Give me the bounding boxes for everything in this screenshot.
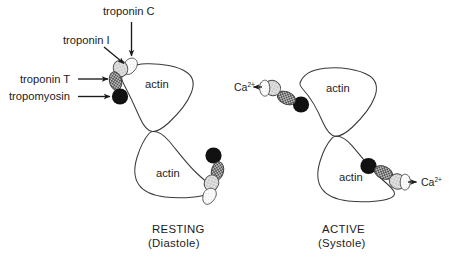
troponin-c-label: troponin C xyxy=(103,5,155,17)
actin-label-top-resting: actin xyxy=(145,78,169,90)
caption-active-main: ACTIVE xyxy=(322,223,365,235)
troponin-t-label: troponin T xyxy=(20,73,70,85)
caption-active-sub: (Systole) xyxy=(318,237,366,249)
calcium-left-text: Ca xyxy=(234,81,248,93)
calcium-right-text: Ca xyxy=(421,176,435,188)
troponin-i-label: troponin I xyxy=(63,34,110,46)
tropomyosin-body-top xyxy=(112,88,128,104)
actin-label-top-active: actin xyxy=(326,82,350,94)
calcium-right-charge: 2+ xyxy=(434,176,442,183)
tropomyosin-label: tropomyosin xyxy=(9,90,70,102)
figure-canvas: actin actin xyxy=(0,0,452,262)
troponin-actin-figure: actin actin xyxy=(0,0,452,262)
calcium-left-charge: 2+ xyxy=(247,81,255,88)
actin-label-bottom-active: actin xyxy=(339,171,363,183)
caption-resting-main: RESTING xyxy=(152,223,205,235)
actin-label-bottom-resting: actin xyxy=(156,167,180,179)
caption-resting-sub: (Diastole) xyxy=(148,237,200,249)
troponin-i-body-top-active xyxy=(260,80,270,96)
tropomyosin-body-bottom xyxy=(205,147,221,163)
